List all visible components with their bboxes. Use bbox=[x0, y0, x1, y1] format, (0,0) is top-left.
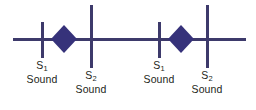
label-s2-first: S2 Sound bbox=[61, 70, 121, 95]
murmur-diamond-second bbox=[168, 25, 194, 53]
label-symbol-subscript: 2 bbox=[208, 74, 212, 83]
label-symbol-subscript: 1 bbox=[160, 64, 164, 73]
murmur-diamond-first bbox=[51, 25, 77, 53]
label-symbol-s2-second: S2 bbox=[177, 70, 237, 83]
heart-sound-timeline-diagram: S1 Sound S2 Sound S1 Sound S2 Sound bbox=[0, 0, 256, 110]
label-word-s2-second: Sound bbox=[177, 84, 237, 95]
label-symbol-subscript: 2 bbox=[92, 74, 96, 83]
label-symbol-subscript: 1 bbox=[43, 64, 47, 73]
label-word-s2-first: Sound bbox=[61, 84, 121, 95]
label-s2-second: S2 Sound bbox=[177, 70, 237, 95]
label-symbol-s2-first: S2 bbox=[61, 70, 121, 83]
